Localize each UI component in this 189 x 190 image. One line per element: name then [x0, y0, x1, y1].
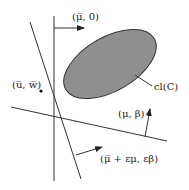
- diagram: (μ̅, 0) (u̅, w̅) cl(C) (μ, β) (μ̅ + εμ, …: [0, 0, 189, 190]
- label-top-arrow: (μ̅, 0): [72, 11, 99, 22]
- label-set: cl(C): [154, 81, 178, 92]
- normal-arrow-bottom: [76, 147, 102, 155]
- label-right-arrow: (μ, β): [118, 108, 145, 119]
- normal-arrow-right: [145, 109, 150, 137]
- label-point: (u̅, w̅): [12, 79, 41, 90]
- set-leader-line: [135, 75, 152, 86]
- slanted-hyperplane: [30, 22, 81, 179]
- label-bottom-arrow: (μ̅ + εμ, εβ): [100, 153, 158, 164]
- set-cl-c: [52, 15, 167, 113]
